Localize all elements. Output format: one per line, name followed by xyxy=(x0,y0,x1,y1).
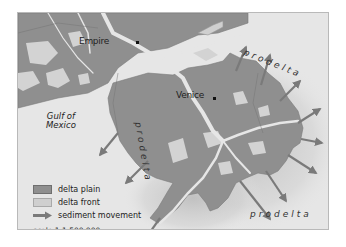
city-label-empire: Empire xyxy=(79,36,109,46)
sediment-arrow-icon xyxy=(33,211,52,220)
venice-marker xyxy=(213,97,216,100)
delta-plain-swatch xyxy=(33,185,52,194)
delta-front-swatch xyxy=(33,198,52,207)
gulf-of-mexico-label: Gulf of Mexico xyxy=(46,112,76,130)
legend-label: sediment movement xyxy=(58,211,141,220)
legend-label: delta front xyxy=(58,198,100,207)
map-legend: delta plain delta front sediment movemen… xyxy=(33,183,183,230)
legend-item-delta-plain: delta plain xyxy=(33,183,183,196)
gulf-label-line2: Mexico xyxy=(46,121,76,130)
prodelta-label-s: prodelta xyxy=(250,209,312,219)
map-scale: scale 1:1,500,000 xyxy=(33,226,183,230)
empire-marker xyxy=(136,41,139,44)
city-label-venice: Venice xyxy=(176,90,204,100)
legend-label: delta plain xyxy=(58,185,100,194)
map-frame: Empire Venice Gulf of Mexico prodelta pr… xyxy=(17,12,329,230)
legend-item-sediment-movement: sediment movement xyxy=(33,209,183,222)
legend-item-delta-front: delta front xyxy=(33,196,183,209)
